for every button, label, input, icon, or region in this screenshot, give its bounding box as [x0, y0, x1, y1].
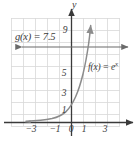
x-tick-label-3: 3 — [98, 124, 112, 134]
y-tick-label-9: 9 — [60, 25, 70, 35]
x-tick-label-1: 1 — [77, 124, 91, 134]
x-tick-label-neg3: −3 — [24, 124, 38, 134]
y-tick-label-5: 5 — [59, 68, 69, 78]
f-function-label-base: f(x) = e — [88, 62, 115, 72]
y-tick-label-3: 3 — [59, 88, 69, 98]
g-function-label: g(x) = 7.5 — [15, 31, 55, 42]
f-function-label: f(x) = ex — [88, 60, 118, 72]
exponential-function-graph: y g(x) = 7.5 f(x) = ex −3 −1 0 1 3 1 3 5… — [0, 0, 138, 144]
x-tick-label-neg1: −1 — [48, 124, 62, 134]
y-tick-label-1: 1 — [59, 105, 69, 115]
x-tick-label-0: 0 — [64, 124, 78, 134]
f-function-exponent: x — [115, 60, 118, 67]
y-axis-label: y — [72, 0, 76, 10]
